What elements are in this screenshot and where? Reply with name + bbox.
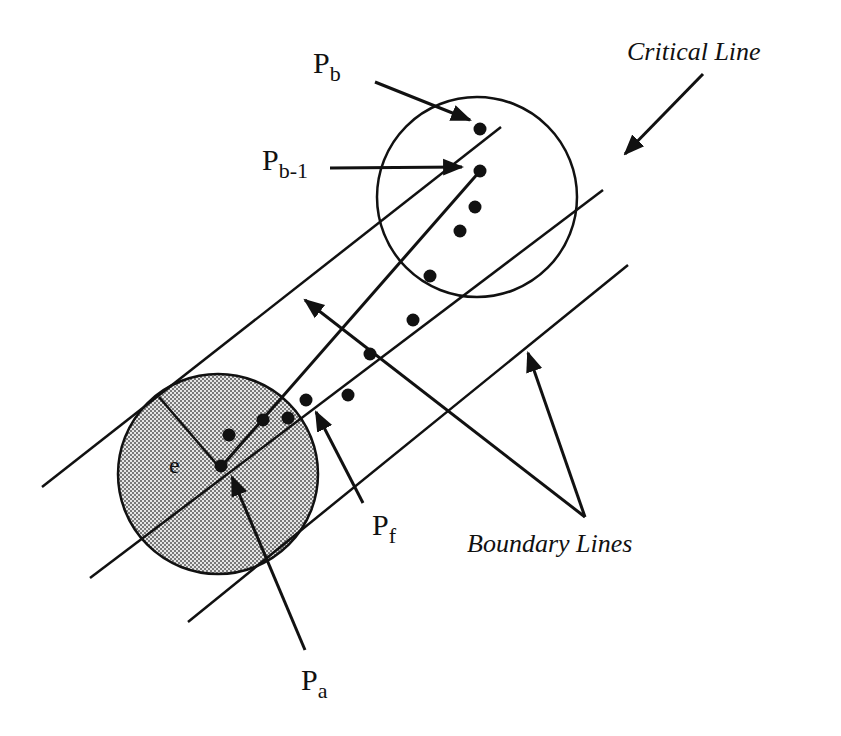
boundary-arrow-lower — [528, 353, 585, 517]
point — [282, 412, 295, 425]
pf-arrow — [316, 412, 363, 503]
pb1-arrow — [330, 167, 462, 168]
point — [407, 314, 420, 327]
point — [454, 225, 467, 238]
point-pf — [300, 394, 313, 407]
label-pa: Pa — [301, 663, 328, 703]
point — [342, 389, 355, 402]
point-pb — [474, 123, 487, 136]
trajectory-diagram: Pb Pb-1 Pf Pa e Critical Line Boundary L… — [0, 0, 841, 736]
label-critical-line: Critical Line — [627, 37, 761, 66]
point — [257, 414, 270, 427]
point — [424, 270, 437, 283]
label-pb1: Pb-1 — [262, 143, 308, 183]
label-pf: Pf — [372, 508, 397, 548]
point-pa — [215, 460, 228, 473]
critical-line-arrow — [625, 74, 703, 154]
point — [223, 429, 236, 442]
label-e: e — [169, 452, 180, 478]
point-pb1 — [474, 165, 487, 178]
point — [469, 201, 482, 214]
label-boundary-lines: Boundary Lines — [467, 529, 632, 558]
label-pb: Pb — [313, 46, 341, 86]
